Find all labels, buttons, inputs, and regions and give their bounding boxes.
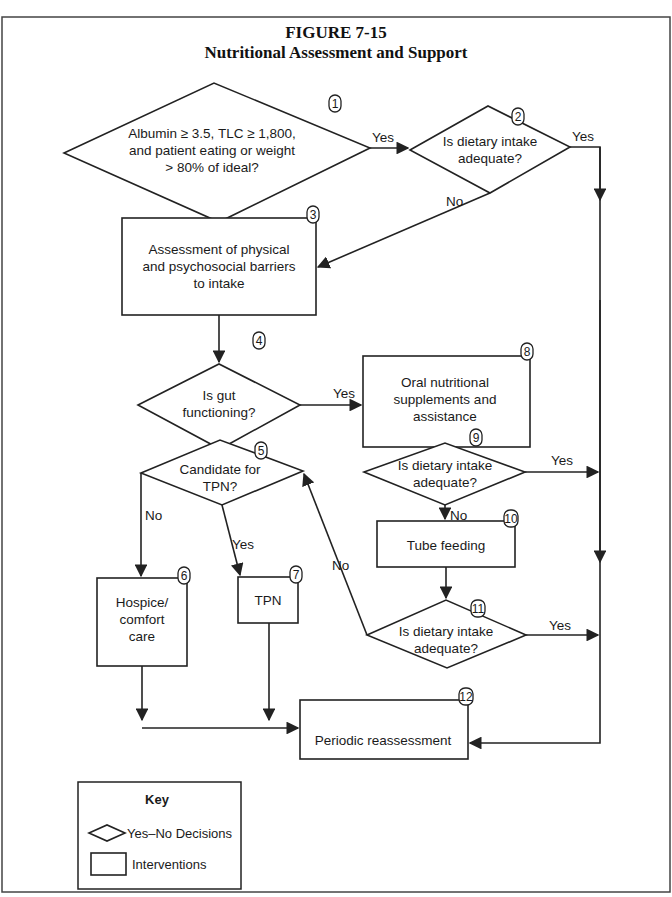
edge-label-11-12: Yes <box>549 618 571 633</box>
node-number-badge: 10 <box>504 512 518 526</box>
edge-label-11-5: No <box>332 558 349 573</box>
legend-key: Key Yes–No Decisions Interventions <box>78 782 241 889</box>
decision-node-11: Is dietary intake adequate? 11 <box>367 600 526 668</box>
node-4-text-line: Is gut <box>202 388 235 403</box>
intervention-node-10: Tube feeding 10 <box>377 510 518 567</box>
figure-label: FIGURE 7-15 <box>285 23 387 42</box>
node-3-text-line: Assessment of physical <box>148 242 289 257</box>
legend-rectangle-icon <box>91 853 126 875</box>
node-2-text-line: Is dietary intake <box>443 134 538 149</box>
intervention-node-8: Oral nutritional supplements and assista… <box>363 343 533 447</box>
legend-decision-label: Yes–No Decisions <box>127 826 233 841</box>
flowchart-canvas: FIGURE 7-15 Nutritional Assessment and S… <box>0 0 672 897</box>
node-number-badge: 1 <box>332 97 339 111</box>
node-number-badge: 9 <box>473 431 480 445</box>
node-5-text-line: TPN? <box>203 479 238 494</box>
decision-node-1: Albumin ≥ 3.5, TLC ≥ 1,800, and patient … <box>64 83 370 222</box>
node-3-text-line: to intake <box>193 276 244 291</box>
intervention-node-3: Assessment of physical and psychosocial … <box>122 206 319 315</box>
node-8-text-line: supplements and <box>394 392 497 407</box>
node-2-text-line: adequate? <box>458 151 522 166</box>
intervention-node-12: Periodic reassessment 12 <box>300 688 473 759</box>
node-1-text-line: and patient eating or weight <box>129 143 295 158</box>
edge-label-9-12: Yes <box>551 453 573 468</box>
node-12-text-line: Periodic reassessment <box>315 733 452 748</box>
node-number-badge: 8 <box>524 345 531 359</box>
node-number-badge: 3 <box>310 208 317 222</box>
legend-intervention-label: Interventions <box>132 857 207 872</box>
edge-label-5-7: Yes <box>232 537 254 552</box>
edge-label-1-2: Yes <box>372 130 394 145</box>
decision-node-5: Candidate for TPN? 5 <box>141 440 303 505</box>
edge-label-2-12: Yes <box>572 129 594 144</box>
edge-label-4-8: Yes <box>333 386 355 401</box>
node-4-text-line: functioning? <box>183 405 256 420</box>
node-5-text-line: Candidate for <box>179 462 261 477</box>
node-number-badge: 4 <box>256 334 263 348</box>
node-number-badge: 2 <box>515 110 522 124</box>
node-11-text-line: Is dietary intake <box>399 624 494 639</box>
node-10-text-line: Tube feeding <box>407 538 485 553</box>
node-8-text-line: assistance <box>413 409 477 424</box>
node-1-text-line: > 80% of ideal? <box>165 160 258 175</box>
node-number-badge: 11 <box>472 602 485 616</box>
intervention-node-7: TPN 7 <box>238 566 302 623</box>
node-8-text-line: Oral nutritional <box>401 375 489 390</box>
legend-title: Key <box>145 792 170 807</box>
node-number-badge: 7 <box>293 568 300 582</box>
node-9-text-line: adequate? <box>413 475 477 490</box>
node-6-text-line: Hospice/ <box>116 595 169 610</box>
edge-label-2-3: No <box>446 194 463 209</box>
node-11-text-line: adequate? <box>414 641 478 656</box>
node-3-text-line: and psychosocial barriers <box>142 259 295 274</box>
node-6-text-line: care <box>129 629 155 644</box>
decision-node-2: Is dietary intake adequate? 2 <box>410 106 570 193</box>
node-1-text-line: Albumin ≥ 3.5, TLC ≥ 1,800, <box>128 126 296 141</box>
node-number-badge: 6 <box>181 569 188 583</box>
edge-label-5-6: No <box>145 508 162 523</box>
node-7-text-line: TPN <box>255 593 282 608</box>
node-6-text-line: comfort <box>119 612 164 627</box>
node-number-badge: 12 <box>459 690 473 704</box>
intervention-node-6: Hospice/ comfort care 6 <box>97 567 190 666</box>
figure-title: Nutritional Assessment and Support <box>204 43 467 62</box>
node-9-text-line: Is dietary intake <box>398 458 493 473</box>
node-number-badge: 5 <box>258 444 265 458</box>
